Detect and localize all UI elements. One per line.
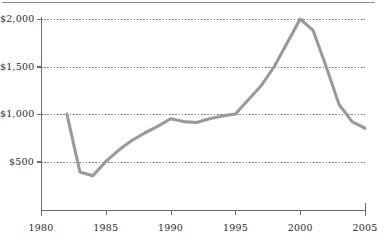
y-tick-label-500: $500 <box>0 157 34 167</box>
x-tick-label-2005: 2005 <box>353 223 378 233</box>
x-tick-marks-group <box>42 203 366 216</box>
x-tick-label-1995: 1995 <box>223 223 248 233</box>
axes-group <box>41 17 365 211</box>
y-tick-label-1000: $1,000 <box>0 109 34 119</box>
x-tick-label-1990: 1990 <box>158 223 183 233</box>
x-tick-label-1985: 1985 <box>93 223 118 233</box>
x-tick-label-2000: 2000 <box>288 223 313 233</box>
y-tick-label-2000: $2,000 <box>0 14 34 24</box>
x-tick-label-1980: 1980 <box>29 223 54 233</box>
data-series-line <box>67 19 365 176</box>
y-tick-label-1500: $1,500 <box>0 62 34 72</box>
